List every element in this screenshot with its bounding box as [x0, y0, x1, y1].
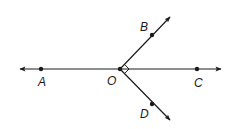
label-b: B: [140, 20, 148, 34]
label-o: O: [107, 74, 116, 88]
point-d: [150, 102, 154, 106]
point-b: [150, 33, 154, 37]
label-a: A: [37, 75, 46, 89]
label-d: D: [140, 107, 149, 121]
point-a: [39, 67, 43, 71]
geometry-diagram: A O C B D: [0, 0, 233, 129]
point-c: [195, 67, 199, 71]
point-o: [118, 67, 122, 71]
label-c: C: [194, 76, 203, 90]
